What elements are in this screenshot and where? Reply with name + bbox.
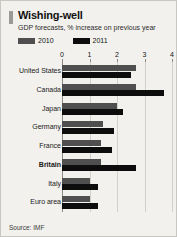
chart-row: Germany <box>9 118 170 137</box>
legend-label-2011: 2011 <box>93 37 108 44</box>
source-note: Source: IMF <box>9 224 44 231</box>
bar-group <box>9 62 170 81</box>
plot-area: 01234 United StatesCanadaJapanGermanyFra… <box>9 51 170 232</box>
legend-swatch-2010 <box>18 38 35 44</box>
accent-bar <box>9 11 13 24</box>
chart-subtitle: GDP forecasts, % increase on previous ye… <box>18 24 156 31</box>
legend-label-2010: 2010 <box>38 37 54 44</box>
card-inner: Wishing-well GDP forecasts, % increase o… <box>9 9 170 232</box>
bar-group <box>9 175 170 194</box>
chart-row: Euro area <box>9 193 170 212</box>
bar-2010 <box>62 84 136 90</box>
page-title: Wishing-well <box>18 9 83 21</box>
x-tick-label: 3 <box>143 51 147 58</box>
chart-row: France <box>9 137 170 156</box>
x-tick-label: 2 <box>115 51 119 58</box>
chart-row: Canada <box>9 81 170 100</box>
bars-plot: United StatesCanadaJapanGermanyFranceBri… <box>9 62 170 212</box>
bar-group <box>9 100 170 119</box>
bar-group <box>9 118 170 137</box>
bar-2011 <box>62 184 98 190</box>
bar-2011 <box>62 128 114 134</box>
bar-2011 <box>62 72 131 78</box>
bar-rows: United StatesCanadaJapanGermanyFranceBri… <box>9 62 170 212</box>
bar-2010 <box>62 178 90 184</box>
x-tick-mark <box>172 59 173 62</box>
bar-group <box>9 137 170 156</box>
chart-card: Wishing-well GDP forecasts, % increase o… <box>0 0 177 237</box>
bar-group <box>9 81 170 100</box>
legend-swatch-2011 <box>73 38 90 44</box>
chart-row: Italy <box>9 175 170 194</box>
bar-2010 <box>62 196 90 202</box>
chart-row: United States <box>9 62 170 81</box>
bar-2011 <box>62 203 98 209</box>
chart-legend: 2010 2011 <box>18 37 108 44</box>
bar-2010 <box>62 65 136 71</box>
legend-item-2011: 2011 <box>73 37 108 44</box>
bar-2010 <box>62 159 101 165</box>
bar-2010 <box>62 103 117 109</box>
bar-group <box>9 193 170 212</box>
x-tick-label: 1 <box>88 51 92 58</box>
chart-row: Japan <box>9 100 170 119</box>
bar-2011 <box>62 90 164 96</box>
x-tick-label: 0 <box>60 51 64 58</box>
x-tick-label: 4 <box>170 51 174 58</box>
bar-2011 <box>62 165 136 171</box>
bar-2011 <box>62 147 112 153</box>
bar-2010 <box>62 140 101 146</box>
bar-2011 <box>62 109 123 115</box>
bar-2010 <box>62 121 103 127</box>
gridline <box>172 62 173 212</box>
legend-item-2010: 2010 <box>18 37 54 44</box>
bar-group <box>9 156 170 175</box>
chart-row: Britain <box>9 156 170 175</box>
